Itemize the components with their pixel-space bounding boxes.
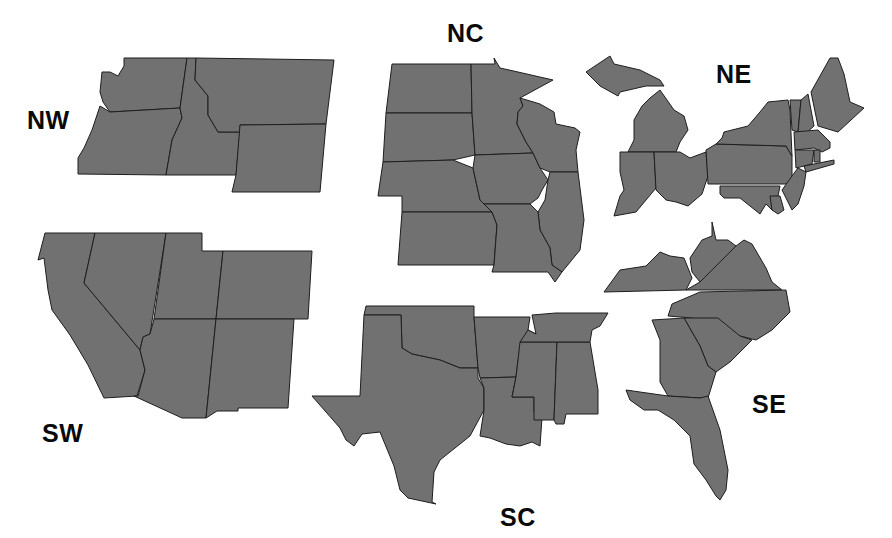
state-alabama bbox=[554, 342, 598, 424]
state-tennessee bbox=[520, 313, 608, 342]
region-label-nc: NC bbox=[447, 21, 484, 46]
region-se bbox=[604, 222, 790, 500]
region-nw bbox=[78, 58, 334, 192]
state-colorado bbox=[216, 251, 312, 319]
region-label-sc: SC bbox=[500, 505, 536, 530]
region-sc bbox=[312, 306, 608, 504]
state-kansas bbox=[398, 212, 497, 265]
state-oregon bbox=[78, 106, 182, 175]
state-indiana bbox=[614, 152, 656, 216]
region-label-ne: NE bbox=[716, 62, 752, 87]
region-label-sw: SW bbox=[42, 421, 83, 446]
us-regions-map bbox=[0, 0, 892, 538]
state-michigan-upper bbox=[586, 56, 664, 96]
state-delaware bbox=[770, 196, 784, 214]
state-pennsylvania bbox=[706, 144, 792, 184]
state-florida bbox=[626, 390, 728, 500]
state-north-dakota bbox=[386, 64, 472, 113]
state-new-mexico bbox=[206, 319, 294, 418]
state-michigan-lower bbox=[628, 90, 688, 152]
state-maine bbox=[811, 58, 864, 132]
state-ohio bbox=[654, 152, 708, 206]
region-label-nw: NW bbox=[27, 108, 70, 133]
region-nc bbox=[378, 58, 584, 282]
state-utah bbox=[154, 233, 223, 319]
region-sw bbox=[38, 233, 312, 418]
state-south-dakota bbox=[383, 113, 475, 162]
state-massachusetts bbox=[794, 130, 830, 152]
state-wyoming bbox=[232, 124, 326, 192]
state-kentucky bbox=[604, 252, 692, 292]
state-montana bbox=[195, 58, 334, 132]
region-label-se: SE bbox=[752, 392, 786, 417]
state-washington bbox=[100, 58, 187, 112]
state-rhode-island bbox=[814, 150, 820, 162]
